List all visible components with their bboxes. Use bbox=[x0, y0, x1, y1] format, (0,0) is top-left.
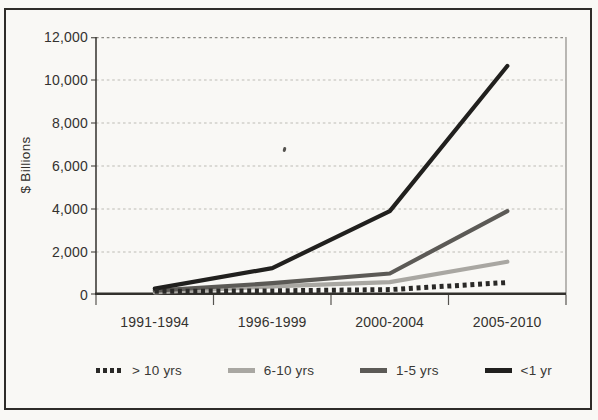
legend-swatch-dotted-line bbox=[96, 368, 123, 373]
legend-swatch-solid-line bbox=[228, 368, 255, 373]
y-tick-label-10000: 10,000 bbox=[26, 72, 88, 88]
chart-legend: > 10 yrs6-10 yrs1-5 yrs<1 yr bbox=[88, 359, 560, 381]
legend-swatch-solid-line bbox=[360, 368, 387, 373]
legend-label: > 10 yrs bbox=[132, 363, 182, 378]
y-tick-label-2000: 2,000 bbox=[26, 244, 88, 260]
legend-item: > 10 yrs bbox=[96, 363, 182, 378]
x-tick-label-2: 2000-2004 bbox=[332, 313, 448, 331]
line-chart-plot bbox=[88, 37, 574, 309]
legend-swatch-solid-line bbox=[485, 368, 512, 373]
legend-item: 6-10 yrs bbox=[228, 363, 314, 378]
x-tick-label-3: 2005-2010 bbox=[449, 313, 565, 331]
y-tick-label-4000: 4,000 bbox=[26, 201, 88, 217]
legend-label: 6-10 yrs bbox=[264, 363, 314, 378]
x-tick-label-1: 1996-1999 bbox=[214, 313, 330, 331]
legend-label: 1-5 yrs bbox=[396, 363, 439, 378]
y-tick-label-12000: 12,000 bbox=[26, 29, 88, 45]
x-tick-label-0: 1991-1994 bbox=[97, 313, 213, 331]
legend-item: <1 yr bbox=[485, 363, 552, 378]
y-tick-label-0: 0 bbox=[26, 287, 88, 303]
y-tick-label-6000: 6,000 bbox=[26, 158, 88, 174]
legend-label: <1 yr bbox=[521, 363, 552, 378]
legend-item: 1-5 yrs bbox=[360, 363, 439, 378]
y-tick-label-8000: 8,000 bbox=[26, 115, 88, 131]
series-line-1-yr bbox=[155, 66, 508, 289]
